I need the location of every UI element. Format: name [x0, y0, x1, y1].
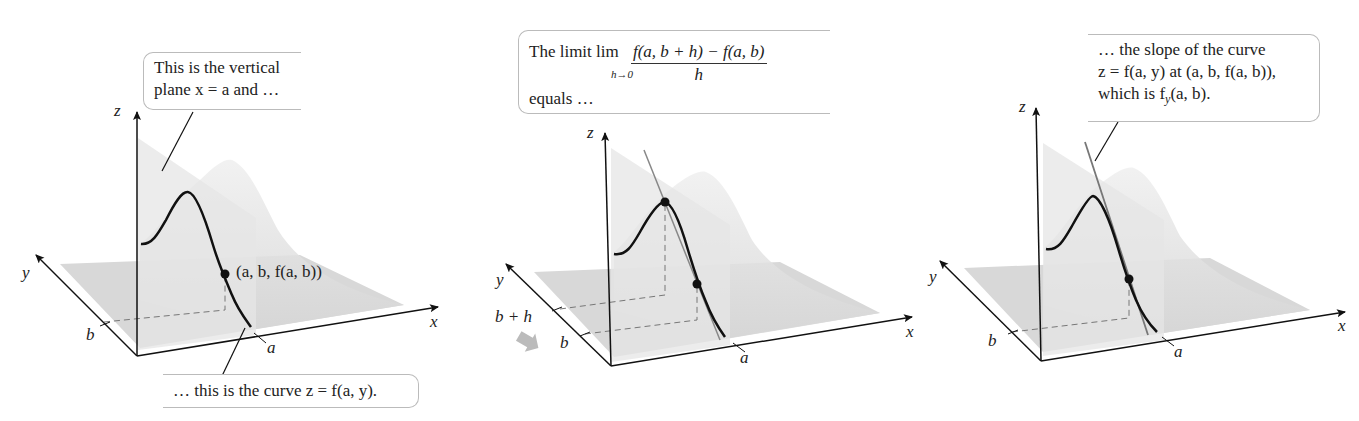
axis-label-z: z: [1019, 97, 1026, 117]
leader-top: [1095, 122, 1118, 161]
axis-label-x: x: [906, 322, 914, 342]
tick-label-b: b: [86, 325, 95, 345]
vertical-plane: [1043, 143, 1164, 356]
tick-a: [254, 333, 266, 343]
panel-1-diagram: [36, 112, 438, 376]
tick-label-b: b: [988, 331, 997, 351]
panel-3-diagram: [940, 108, 1345, 361]
limit-subscript: h→0: [611, 63, 633, 85]
point-label: (a, b, f(a, b)): [236, 262, 322, 282]
callout-line: plane x = a and …: [154, 79, 291, 101]
callout-line: equals …: [529, 88, 820, 110]
panel-2-diagram: [506, 133, 912, 366]
point-b-plus-h: [661, 198, 670, 207]
tick-label-b: b: [560, 333, 569, 353]
callout-vertical-plane: This is the vertical plane x = a and …: [143, 52, 301, 110]
tick-b: [100, 322, 110, 326]
denominator: h: [631, 64, 767, 86]
axis-label-y: y: [22, 263, 30, 283]
point-abf: [1125, 275, 1134, 284]
point-b: [693, 280, 702, 289]
axis-label-x: x: [1338, 316, 1346, 336]
callout-line-prefix: which is f: [1098, 84, 1165, 103]
axis-label-z: z: [114, 101, 121, 121]
callout-line: This is the vertical: [154, 57, 291, 79]
axis-label-z: z: [587, 123, 594, 143]
tick-label-b-plus-h: b + h: [495, 307, 532, 327]
tick-label-a: a: [740, 348, 749, 368]
callout-line: z = f(a, y) at (a, b, f(a, b)),: [1098, 61, 1309, 83]
tick-label-a: a: [1174, 342, 1183, 362]
callout-curve: … this is the curve z = f(a, y).: [163, 374, 419, 408]
callout-slope: … the slope of the curve z = f(a, y) at …: [1088, 34, 1320, 122]
axis-label-y: y: [496, 270, 504, 290]
callout-limit: The limit lim f(a, b + h) − f(a, b) h h→…: [518, 30, 830, 114]
point-abf: [221, 270, 230, 279]
axis-label-x: x: [430, 312, 438, 332]
difference-quotient: f(a, b + h) − f(a, b) h: [631, 41, 767, 86]
direction-arrow-icon: [513, 327, 543, 357]
callout-text: … this is the curve z = f(a, y).: [173, 381, 377, 400]
callout-line: … the slope of the curve: [1098, 39, 1309, 61]
leader-top: [162, 112, 193, 171]
callout-line-suffix: (a, b).: [1170, 84, 1210, 103]
tick-label-a: a: [267, 338, 276, 358]
numerator: f(a, b + h) − f(a, b): [631, 41, 767, 64]
limit-prefix: The limit lim: [529, 42, 619, 61]
axis-label-y: y: [929, 267, 937, 287]
